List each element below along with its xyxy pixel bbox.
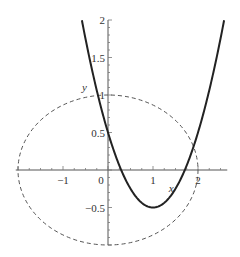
chart: −101221.510.5−0.5xy [0, 0, 240, 257]
x-tick-label: 1 [150, 174, 156, 186]
y-tick-label: 1 [100, 89, 106, 101]
axes [16, 20, 228, 245]
x-axis-label: x [168, 182, 174, 194]
x-tick-label: 0 [98, 174, 104, 186]
x-tick-label: 2 [195, 174, 201, 186]
x-tick-label: −1 [57, 174, 69, 186]
y-axis-label: y [81, 81, 87, 93]
y-tick-label: 1.5 [91, 52, 105, 64]
y-tick-label: −0.5 [85, 202, 105, 214]
y-tick-label: 0.5 [91, 127, 105, 139]
y-tick-label: 2 [100, 14, 106, 26]
